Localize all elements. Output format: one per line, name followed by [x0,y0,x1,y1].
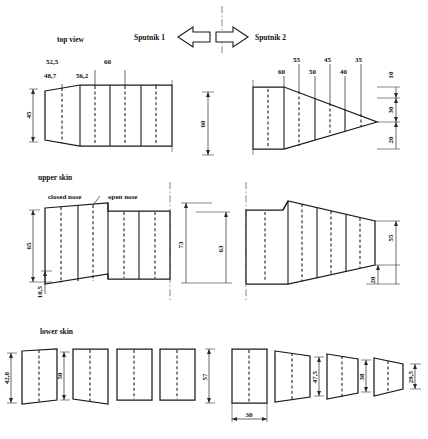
dim-top-right-20: 20 [387,136,395,144]
top-view-label: top view [57,35,84,44]
dim-arrowhead [376,265,380,270]
dim-arrowhead [9,353,13,358]
dim-top-56-2: 56,2 [76,72,89,80]
dim-arrowhead [364,387,368,392]
dim-top-60: 60 [104,58,112,66]
dim-arrowhead [62,395,66,400]
top-view-left-body [45,85,172,146]
dim-lower-42-8: 42,8 [3,371,11,384]
dim-arrowhead [394,93,398,98]
dim-arrowhead [31,89,35,94]
dim-upper-right-20: 20 [369,276,377,284]
dim-top-right-60: 60 [278,68,286,76]
dim-top-center-height-60: 60 [199,120,207,128]
dim-arrowhead [364,360,368,365]
dim-arrowhead [31,137,35,142]
dim-lower-47-5: 47,5 [311,370,319,383]
dim-top-left-height-45: 45 [25,111,33,119]
dim-upper-left-10-5: 10,5 [36,285,44,298]
dim-arrowhead [413,384,417,389]
dim-arrowhead [31,210,35,215]
dim-upper-right-55: 55 [387,234,395,242]
dim-arrowhead [206,150,210,155]
sputnik-2-label: Sputnik 2 [255,33,286,42]
lower-skin-label: lower skin [40,327,74,336]
dim-lower-29-5: 29,5 [407,370,415,383]
drawing-canvas: Sputnik 1 Sputnik 2 top view 48,7 52,5 5… [0,0,428,439]
open-nose-label: open nose [108,193,137,201]
dim-top-right-50: 50 [309,68,317,76]
dim-arrowhead [317,391,321,396]
dim-arrowhead [206,92,210,97]
arrow-right-icon [216,27,248,47]
dim-lower-38: 38 [358,373,366,381]
dim-arrowhead [224,212,228,217]
dim-lower-50: 50 [56,372,64,380]
lower-skin-panel-7 [327,354,358,399]
dim-top-right-30: 30 [387,106,395,114]
arrow-left-icon [178,27,210,47]
dim-arrowhead [232,417,237,421]
dim-top-right-35: 35 [355,56,363,64]
dim-arrowhead [394,122,398,127]
dim-upper-center-73: 73 [177,241,185,249]
dim-arrowhead [317,357,321,362]
dim-top-right-40: 40 [340,68,348,76]
dim-arrowhead [207,349,211,354]
dim-arrowhead [9,398,13,403]
dim-arrowhead [62,352,66,357]
upper-skin-label: upper skin [38,173,73,182]
dim-arrowhead [207,398,211,403]
sputnik-1-label: Sputnik 1 [134,33,165,42]
dim-arrowhead [394,221,398,226]
dim-arrowhead [394,117,398,122]
dim-top-right-10: 10 [387,71,395,79]
dim-arrowhead [413,364,417,369]
dim-upper-center-63: 63 [217,245,225,253]
dim-upper-left-65: 65 [25,242,33,250]
closed-nose-label: closed nose [48,193,81,201]
dim-top-right-45: 45 [324,56,332,64]
dim-arrowhead [31,277,35,282]
dim-top-52-5: 52,5 [46,58,59,66]
dim-arrowhead [394,98,398,103]
dim-arrowhead [262,417,267,421]
dim-lower-57: 57 [201,373,209,381]
dim-top-48-7: 48,7 [44,72,57,80]
dim-lower-width-30: 30 [246,411,254,419]
technical-drawing-sheet: Sputnik 1 Sputnik 2 top view 48,7 52,5 5… [0,0,428,439]
dim-arrowhead [184,203,188,208]
dim-top-right-55: 55 [293,56,301,64]
